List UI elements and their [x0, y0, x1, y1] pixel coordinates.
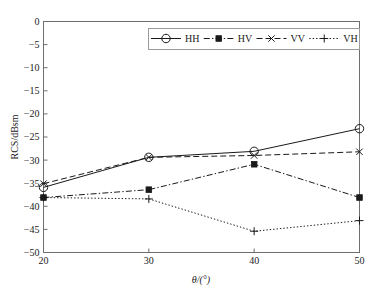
series-layer — [39, 124, 363, 235]
y-tick-label: −10 — [24, 62, 40, 73]
chart-plot-area: 0−5−10−15−20−25−30−35−40−45−50 20304050 … — [0, 0, 378, 298]
x-tick-label: 40 — [249, 255, 259, 266]
series-hh — [39, 124, 363, 191]
y-tick-label: −50 — [24, 247, 40, 258]
data-point-marker — [145, 195, 153, 203]
y-tick-label: −30 — [24, 155, 40, 166]
x-tick-label: 30 — [144, 255, 154, 266]
series-hv — [41, 161, 363, 200]
data-point-marker — [146, 187, 152, 193]
legend-label: VH — [343, 33, 357, 44]
y-tick-label: −45 — [24, 224, 40, 235]
series-line — [44, 198, 360, 232]
chart-figure: 0−5−10−15−20−25−30−35−40−45−50 20304050 … — [0, 0, 378, 298]
y-tick-label: −15 — [24, 85, 40, 96]
y-tick-label: 0 — [35, 16, 40, 27]
plot-frame — [44, 22, 360, 253]
series-line — [44, 164, 360, 197]
series-vh — [40, 194, 364, 236]
series-line — [44, 129, 360, 188]
y-tick-label: −20 — [24, 108, 40, 119]
x-tick-label: 50 — [355, 255, 365, 266]
data-point-marker — [357, 195, 363, 201]
y-tick-label: −5 — [29, 39, 40, 50]
data-point-marker — [251, 161, 257, 167]
x-axis-title: θ/(°) — [192, 274, 211, 286]
y-tick-label: −25 — [24, 131, 40, 142]
y-tick-label: −40 — [24, 201, 40, 212]
y-tick-label: −35 — [24, 178, 40, 189]
series-line — [44, 152, 360, 184]
chart-legend[interactable]: HHHVVVVH — [149, 29, 360, 50]
data-point-marker — [356, 217, 364, 225]
legend-label: HH — [185, 33, 199, 44]
x-axis-ticks: 20304050 — [39, 249, 365, 266]
data-point-marker — [250, 227, 258, 235]
data-point-marker — [216, 36, 222, 42]
legend-label: VV — [291, 33, 306, 44]
y-axis-title: RCS/dBsm — [9, 114, 20, 159]
x-tick-label: 20 — [39, 255, 49, 266]
legend-label: HV — [238, 33, 253, 44]
